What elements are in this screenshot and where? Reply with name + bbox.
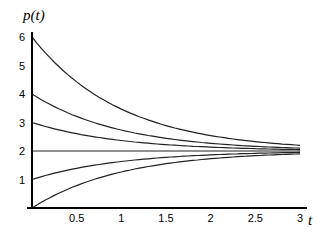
curve-p0-3: [32, 123, 300, 150]
chart: 0.511.522.53 123456 p(t) t: [0, 0, 327, 232]
curve-p0-1: [32, 152, 300, 179]
y-axis-label: p(t): [22, 7, 45, 24]
x-tick-label: 2: [208, 212, 214, 224]
y-tick-label: 6: [19, 31, 25, 43]
y-tick-labels: 123456: [19, 31, 25, 186]
x-tick-label: 3: [297, 212, 303, 224]
solution-curves: [32, 37, 300, 208]
x-tick-label: 0.5: [69, 212, 84, 224]
x-axis-label: t: [308, 212, 313, 228]
x-tick-labels: 0.511.522.53: [69, 212, 303, 224]
y-tick-label: 1: [19, 174, 25, 186]
y-tick-label: 3: [19, 117, 25, 129]
curve-p0-6: [32, 37, 300, 145]
y-tick-label: 4: [19, 88, 25, 100]
x-tick-label: 1.5: [158, 212, 173, 224]
x-tick-label: 2.5: [248, 212, 263, 224]
x-tick-label: 1: [118, 212, 124, 224]
y-tick-label: 2: [19, 145, 25, 157]
curve-p0-0: [32, 154, 300, 208]
y-tick-label: 5: [19, 60, 25, 72]
curve-p0-4: [32, 94, 300, 148]
